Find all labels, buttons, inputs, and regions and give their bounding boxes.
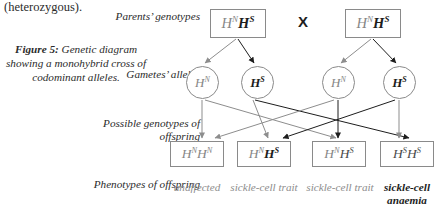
parent1-to-gametes [205,39,254,63]
allele-pair: HS [392,75,407,91]
allele-superscript: N [341,74,346,83]
allele-pair: HN [182,146,197,162]
parent2-to-gametes [341,39,396,63]
allele-symbol: H [407,146,417,161]
allele-symbol: H [392,75,402,90]
allele-superscript: S [249,14,254,24]
allele-symbol: H [340,146,350,161]
allele-symbol: H [264,146,275,161]
gamete2-to-offspring [253,100,409,138]
allele-superscript: N [205,74,210,83]
allele-symbol: H [238,15,249,31]
allele-symbol: H [250,75,260,90]
allele-pair-2: HS [238,15,254,32]
phenotype-label-4: sickle-cell anaemia [371,181,443,207]
allele-symbol: H [373,15,384,31]
allele-superscript: S [275,146,280,155]
phenotype-label-1: unaffected [161,181,233,194]
allele-pair-2: HN [197,146,212,162]
allele-pair-2: HS [373,15,389,32]
allele-pair: HN [331,75,346,91]
allele-pair: HN [357,15,373,32]
allele-pair: HN [222,15,238,32]
gamete-circle-2: HS [241,66,274,99]
allele-superscript: N [207,146,213,155]
allele-superscript: S [260,74,264,83]
allele-pair-2: HS [407,146,421,162]
allele-symbol: H [197,146,207,161]
allele-symbol: H [222,15,232,31]
gamete4-to-offspring [283,100,399,138]
gamete-circle-1: HN [186,66,219,99]
allele-pair-2: HS [340,146,354,162]
allele-superscript: S [402,74,406,83]
allele-pair-2: HS [264,146,279,162]
allele-symbol: H [249,146,259,161]
offspring-genotype-box-4: HS HS [380,141,434,167]
allele-pair: HN [195,75,210,91]
allele-pair: HS [393,146,407,162]
allele-superscript: S [349,146,353,155]
allele-symbol: H [331,75,340,90]
allele-symbol: H [324,146,334,161]
figure-page: (heterozygous). Figure 5: Genetic diagra… [0,0,443,214]
cross-symbol: X [298,13,308,30]
offspring-genotype-box-3: HN HS [312,141,366,167]
allele-symbol: H [195,75,204,90]
phenotype-label-3: sickle-cell trait [304,181,376,194]
phenotype-label-2: sickle-cell trait [228,181,300,194]
parent-genotype-box-1: HN HS [210,9,266,38]
allele-symbol: H [182,146,192,161]
allele-superscript: S [384,14,389,24]
allele-pair: HN [249,146,264,162]
gamete-circle-3: HN [322,66,355,99]
allele-symbol: H [357,15,367,31]
offspring-genotype-box-1: HN HN [170,141,224,167]
gamete-circle-4: HS [383,66,416,99]
allele-superscript: S [417,146,421,155]
allele-symbol: H [393,146,403,161]
offspring-genotype-box-2: HN HS [237,141,291,167]
parent-genotype-box-2: HN HS [345,9,401,38]
genetic-cross-diagram: HN HS HN HS X HN HS HN HS [0,0,443,214]
allele-pair: HS [250,75,265,91]
allele-pair: HN [324,146,339,162]
